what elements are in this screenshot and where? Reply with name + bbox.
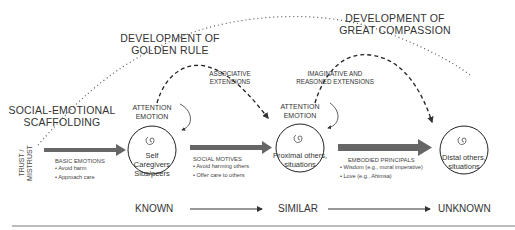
stage-bullet: • Approach care: [55, 173, 105, 182]
header-great-compassion: DEVELOPMENT OF GREAT COMPASSION: [325, 12, 465, 36]
stage-basic-emotions: BASIC EMOTIONS • Avoid harm • Approach c…: [55, 158, 105, 182]
header-line: SCAFFOLDING: [2, 116, 122, 128]
label-line: ATTENTION: [128, 103, 176, 112]
stage-arrows: [44, 139, 432, 156]
label-line: Distal others,: [438, 153, 490, 162]
attention-emotion-2: ATTENTION EMOTION: [276, 102, 324, 120]
label-line: Self: [128, 151, 176, 160]
stage-bullet: • Offer care to others: [193, 171, 249, 180]
feedback-arrow-2: [328, 103, 338, 128]
header-scaffolding: SOCIAL-EMOTIONAL SCAFFOLDING: [2, 104, 122, 128]
stage-social-motives: SOCIAL MOTIVES • Avoid harming others • …: [193, 156, 249, 180]
label-line: TRUST /: [18, 138, 26, 188]
trust-mistrust-label: TRUST / MISTRUST: [18, 138, 34, 188]
label-line: ATTENTION: [276, 102, 324, 111]
header-line: SOCIAL-EMOTIONAL: [2, 104, 122, 116]
imaginative-dashed-curve: [315, 55, 432, 122]
label-line: Sibs/peers: [128, 169, 176, 178]
header-golden-rule: DEVELOPMENT OF GOLDEN RULE: [110, 32, 230, 56]
label-line: Caregivers: [128, 160, 176, 169]
label-line: Proximal others,: [270, 151, 330, 160]
label-line: EXTENSIONS: [200, 78, 260, 86]
attention-emotion-1: ATTENTION EMOTION: [128, 103, 176, 121]
label-line: MISTRUST: [26, 138, 34, 188]
circle-label-self: Self Caregivers Sibs/peers: [128, 151, 176, 178]
label-line: situations: [438, 162, 490, 171]
stage-bullet: • Avoid harm: [55, 164, 105, 173]
label-line: REASONED EXTENSIONS: [285, 78, 385, 86]
stage-embodied-principals: EMBODIED PRINCIPALS • Wisdom (e.g., mora…: [340, 157, 423, 181]
axis-unknown: UNKNOWN: [438, 203, 491, 214]
axis-similar: SIMILAR: [278, 203, 318, 214]
circle-label-distal: Distal others, situations: [438, 153, 490, 171]
header-line: DEVELOPMENT OF: [110, 32, 230, 44]
circle-label-proximal: Proximal others, situations: [270, 151, 330, 169]
header-line: GOLDEN RULE: [110, 44, 230, 56]
feedback-arrow-1: [180, 104, 190, 130]
header-line: DEVELOPMENT OF: [325, 12, 465, 24]
stage-bullet: • Love (e.g., Ahimsa): [340, 172, 423, 181]
associative-extensions-label: ASSOCIATIVE EXTENSIONS: [200, 70, 260, 86]
label-line: situations: [270, 160, 330, 169]
header-line: GREAT COMPASSION: [325, 24, 465, 36]
label-line: EMOTION: [276, 111, 324, 120]
stage-bullet: • Wisdom (e.g., moral imperative): [340, 163, 423, 172]
imaginative-extensions-label: IMAGINATIVE AND REASONED EXTENSIONS: [285, 70, 385, 86]
stage-bullet: • Avoid harming others: [193, 162, 249, 171]
label-line: ASSOCIATIVE: [200, 70, 260, 78]
label-line: EMOTION: [128, 112, 176, 121]
axis-known: KNOWN: [135, 203, 173, 214]
label-line: IMAGINATIVE AND: [285, 70, 385, 78]
